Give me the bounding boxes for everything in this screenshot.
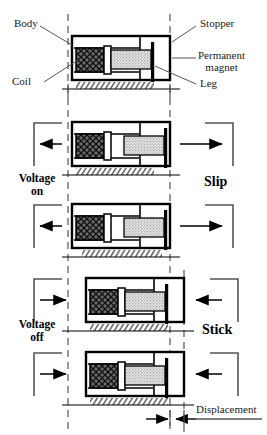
panel-1-reference — [62, 36, 180, 98]
callout-leg: Leg — [200, 78, 217, 90]
state-voltage-off-line1: Voltage — [19, 318, 56, 330]
panel-4-ground-hatch — [90, 324, 168, 331]
panel-5-stick-end — [34, 352, 238, 405]
callout-stopper: Stopper — [200, 18, 234, 30]
callout-permanent-magnet-line1: Permanent — [198, 49, 245, 61]
panel-5-permanent-magnet — [125, 366, 165, 385]
panel-3-permanent-magnet — [124, 218, 164, 237]
panel-5-collar — [118, 362, 125, 390]
panel-4-arrow-left — [34, 279, 66, 322]
panel-2-collar — [104, 132, 111, 160]
panel-3-leg — [164, 210, 167, 250]
panel-1-permanent-magnet — [111, 50, 151, 69]
panel-3-coil — [76, 216, 104, 240]
panel-5-arrow-left — [34, 353, 66, 396]
displacement-label: Displacement — [196, 404, 256, 416]
panel-2-coil — [76, 134, 104, 158]
panel-1-leg — [151, 42, 154, 82]
state-voltage-on: Voltage on — [6, 172, 68, 198]
panel-1-ground-hatch — [76, 82, 154, 89]
state-voltage-on-line1: Voltage — [19, 172, 56, 184]
panel-4-collar — [118, 288, 125, 316]
phase-slip: Slip — [204, 174, 227, 190]
callout-permanent-magnet-line2: magnet — [205, 61, 237, 73]
panel-2-arrow-left — [34, 123, 62, 166]
panel-5-ground-hatch — [90, 398, 168, 405]
panel-3-ground-hatch — [82, 250, 162, 257]
state-voltage-off: Voltage off — [6, 318, 68, 344]
panel-2-slip-start — [34, 122, 233, 175]
panel-3-arrow-left — [34, 205, 62, 248]
panel-3-slip-end — [34, 204, 233, 257]
phase-stick: Stick — [202, 322, 232, 338]
panel-5-arrow-right — [196, 353, 238, 396]
panel-3-arrow-right — [180, 205, 233, 248]
callout-body: Body — [14, 18, 38, 30]
actuator-sequence-figure: Body Coil Stopper Permanent magnet Leg V… — [0, 0, 267, 435]
panel-1-collar — [104, 46, 111, 74]
panel-2-ground-hatch — [76, 168, 154, 175]
panel-2-leg — [164, 128, 167, 168]
panel-3-collar — [104, 214, 111, 242]
panel-2-permanent-magnet — [124, 136, 164, 155]
panel-5-leg — [165, 358, 168, 398]
panel-4-permanent-magnet — [125, 292, 165, 311]
callout-coil: Coil — [12, 76, 31, 88]
panel-4-leg — [165, 284, 168, 324]
panel-4-coil — [90, 290, 118, 314]
panel-2-arrow-right — [180, 123, 233, 166]
panel-4-arrow-right — [196, 279, 238, 322]
panel-5-coil — [90, 364, 118, 388]
panel-1-coil — [76, 48, 104, 72]
state-voltage-off-line2: off — [30, 331, 43, 343]
state-voltage-on-line2: on — [31, 185, 43, 197]
callout-permanent-magnet: Permanent magnet — [198, 50, 245, 73]
